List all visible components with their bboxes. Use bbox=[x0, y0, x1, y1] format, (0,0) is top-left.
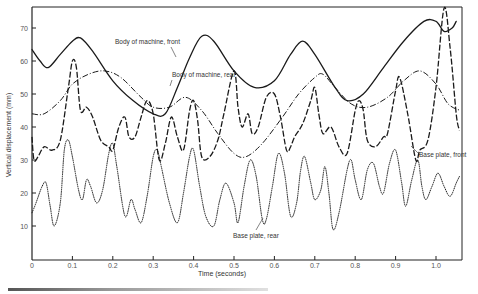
x-tick-label: 0.6 bbox=[270, 262, 280, 269]
x-tick-label: 0.7 bbox=[310, 262, 320, 269]
annotation-body-front-arrow bbox=[171, 47, 176, 57]
y-axis-ticks: 10203040506070 bbox=[20, 25, 36, 230]
y-tick-label: 70 bbox=[20, 25, 28, 32]
y-tick-label: 40 bbox=[20, 124, 28, 131]
annotation-body-rear-arrow bbox=[170, 80, 172, 86]
series-lines bbox=[32, 7, 460, 230]
y-axis-title: Vertical displacement (mm) bbox=[5, 93, 13, 177]
y-tick-label: 60 bbox=[20, 58, 28, 65]
x-axis-title: Time (seconds) bbox=[198, 270, 246, 278]
annotation-base-rear: Base plate, rear bbox=[233, 218, 280, 240]
x-tick-label: 0.4 bbox=[189, 262, 199, 269]
series-base-plate-rear bbox=[32, 140, 459, 230]
series-body-of-machine-rear bbox=[32, 71, 460, 158]
x-tick-label: 0.2 bbox=[108, 262, 118, 269]
annotation-base-rear-arrow bbox=[256, 218, 263, 230]
annotation-body-front-label: Body of machine, front bbox=[115, 38, 180, 46]
x-tick-label: 0.5 bbox=[229, 262, 239, 269]
x-tick-label: 0 bbox=[30, 262, 34, 269]
annotation-base-rear-label: Base plate, rear bbox=[233, 232, 280, 240]
page-edge-bar bbox=[8, 288, 268, 291]
y-tick-label: 10 bbox=[20, 223, 28, 230]
y-tick-label: 20 bbox=[20, 190, 28, 197]
x-tick-label: 0.8 bbox=[350, 262, 360, 269]
x-tick-label: 0.3 bbox=[148, 262, 158, 269]
series-body-of-machine-front bbox=[32, 20, 456, 117]
annotation-base-front: Base plate, front bbox=[411, 146, 467, 159]
x-axis-ticks: 00.10.20.30.40.50.60.70.80.91.0 bbox=[30, 256, 441, 269]
annotation-body-rear-label: Body of machine, rear bbox=[172, 71, 236, 79]
annotation-body-rear: Body of machine, rear bbox=[170, 71, 236, 86]
x-tick-label: 0.9 bbox=[391, 262, 401, 269]
annotation-base-front-label: Base plate, front bbox=[419, 151, 467, 159]
plot-frame bbox=[32, 7, 462, 260]
x-tick-label: 1.0 bbox=[431, 262, 441, 269]
y-tick-label: 30 bbox=[20, 157, 28, 164]
y-tick-label: 50 bbox=[20, 91, 28, 98]
displacement-chart: 10203040506070 00.10.20.30.40.50.60.70.8… bbox=[0, 0, 478, 294]
annotation-body-front: Body of machine, front bbox=[115, 38, 180, 57]
x-tick-label: 0.1 bbox=[68, 262, 78, 269]
series-base-plate-front bbox=[32, 7, 459, 161]
